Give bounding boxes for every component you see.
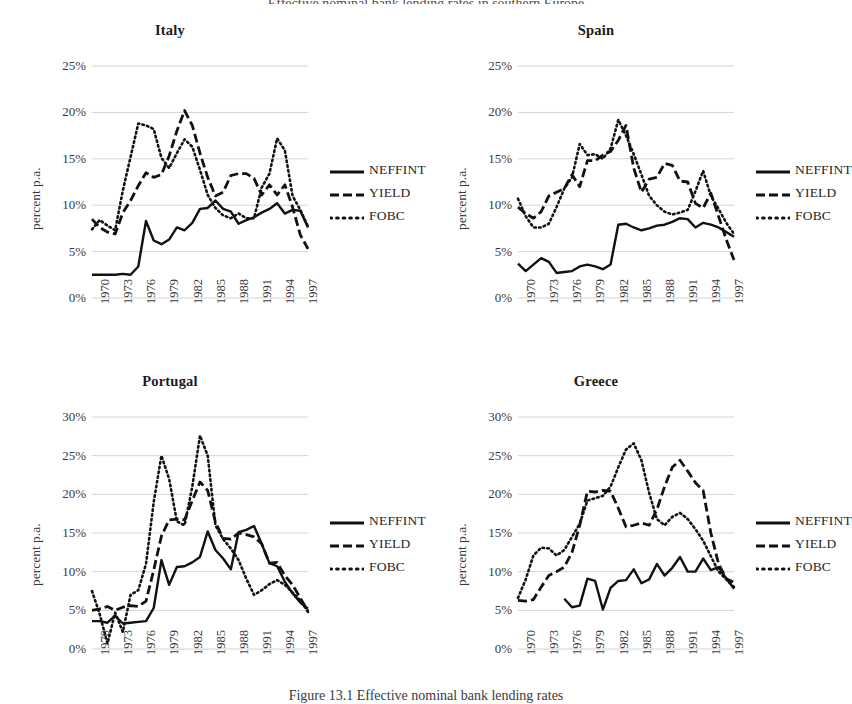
series-line-neffint	[564, 557, 734, 610]
x-tick-label: 1988	[663, 630, 678, 655]
y-tick-label: 20%	[40, 486, 86, 502]
x-tick-label: 1976	[570, 630, 585, 655]
panel-spain: Spain percent p.a. NEFFINTYIELDFOBC 0%5%…	[426, 0, 852, 351]
y-tick-label: 0%	[40, 641, 86, 657]
x-tick-label: 1973	[547, 630, 562, 655]
y-tick-label: 5%	[40, 244, 86, 260]
y-tick-label: 20%	[466, 104, 512, 120]
legend-swatch-dotted	[756, 561, 790, 573]
x-tick-label: 1985	[214, 279, 229, 304]
panel-italy: Italy percent p.a. NEFFINTYIELDFOBC 0%5%…	[0, 0, 426, 351]
x-tick-label: 1982	[617, 630, 632, 655]
y-tick-label: 5%	[466, 244, 512, 260]
y-tick-label: 25%	[466, 448, 512, 464]
legend-greece: NEFFINTYIELDFOBC	[756, 509, 852, 578]
legend-label: NEFFINT	[369, 513, 426, 529]
series-line-yield	[92, 482, 308, 611]
legend-label: FOBC	[369, 559, 405, 575]
legend-swatch-dashed	[756, 538, 790, 550]
legend-swatch-solid	[330, 515, 364, 527]
y-tick-label: 25%	[40, 448, 86, 464]
y-tick-label: 25%	[466, 58, 512, 74]
y-tick-label: 5%	[466, 602, 512, 618]
x-tick-label: 1970	[98, 630, 113, 655]
legend-spain: NEFFINTYIELDFOBC	[756, 158, 852, 227]
legend-label: FOBC	[795, 208, 831, 224]
x-tick-label: 1970	[524, 279, 539, 304]
y-tick-label: 15%	[40, 151, 86, 167]
x-tick-label: 1985	[640, 279, 655, 304]
x-tick-label: 1973	[121, 630, 136, 655]
x-tick-label: 1994	[283, 279, 298, 304]
legend-item-fobc[interactable]: FOBC	[756, 555, 852, 578]
legend-item-neffint[interactable]: NEFFINT	[330, 158, 426, 181]
y-tick-label: 30%	[40, 409, 86, 425]
legend-item-yield[interactable]: YIELD	[330, 181, 426, 204]
x-tick-label: 1994	[283, 630, 298, 655]
panel-portugal: Portugal percent p.a. NEFFINTYIELDFOBC 0…	[0, 351, 426, 702]
y-tick-label: 15%	[466, 151, 512, 167]
x-tick-label: 1985	[640, 630, 655, 655]
y-tick-label: 30%	[466, 409, 512, 425]
legend-item-yield[interactable]: YIELD	[330, 532, 426, 555]
legend-italy: NEFFINTYIELDFOBC	[330, 158, 426, 227]
x-tick-label: 1997	[732, 630, 747, 655]
x-tick-label: 1979	[593, 279, 608, 304]
x-tick-label: 1979	[167, 279, 182, 304]
x-tick-label: 1991	[260, 279, 275, 304]
y-tick-label: 10%	[466, 197, 512, 213]
x-tick-label: 1991	[260, 630, 275, 655]
legend-swatch-dotted	[330, 561, 364, 573]
legend-item-fobc[interactable]: FOBC	[330, 555, 426, 578]
series-line-yield	[518, 125, 734, 260]
legend-item-neffint[interactable]: NEFFINT	[330, 509, 426, 532]
x-tick-label: 1970	[98, 279, 113, 304]
figure-caption: Figure 13.1 Effective nominal bank lendi…	[0, 688, 852, 704]
y-tick-label: 15%	[40, 525, 86, 541]
x-tick-label: 1982	[191, 279, 206, 304]
legend-label: FOBC	[795, 559, 831, 575]
legend-label: NEFFINT	[795, 513, 852, 529]
legend-swatch-dashed	[330, 538, 364, 550]
x-tick-label: 1973	[547, 279, 562, 304]
legend-item-yield[interactable]: YIELD	[756, 532, 852, 555]
legend-swatch-solid	[756, 515, 790, 527]
series-line-neffint	[518, 218, 734, 273]
x-tick-label: 1985	[214, 630, 229, 655]
legend-swatch-dotted	[756, 210, 790, 222]
legend-item-yield[interactable]: YIELD	[756, 181, 852, 204]
x-tick-label: 1976	[144, 279, 159, 304]
legend-item-fobc[interactable]: FOBC	[330, 204, 426, 227]
series-line-fobc	[518, 120, 734, 234]
legend-item-fobc[interactable]: FOBC	[756, 204, 852, 227]
legend-label: YIELD	[795, 185, 837, 201]
x-tick-label: 1988	[237, 279, 252, 304]
x-tick-label: 1994	[709, 630, 724, 655]
x-tick-label: 1982	[191, 630, 206, 655]
y-tick-label: 10%	[40, 197, 86, 213]
legend-label: YIELD	[369, 536, 411, 552]
legend-label: YIELD	[369, 185, 411, 201]
y-tick-label: 20%	[466, 486, 512, 502]
x-tick-label: 1976	[144, 630, 159, 655]
x-tick-label: 1988	[663, 279, 678, 304]
y-tick-label: 25%	[40, 58, 86, 74]
y-tick-label: 0%	[466, 641, 512, 657]
x-tick-label: 1994	[709, 279, 724, 304]
series-line-neffint	[92, 526, 308, 623]
legend-swatch-solid	[756, 164, 790, 176]
x-tick-label: 1979	[593, 630, 608, 655]
legend-item-neffint[interactable]: NEFFINT	[756, 509, 852, 532]
y-tick-label: 20%	[40, 104, 86, 120]
y-tick-label: 15%	[466, 525, 512, 541]
x-tick-label: 1970	[524, 630, 539, 655]
x-tick-label: 1982	[617, 279, 632, 304]
legend-swatch-dashed	[756, 187, 790, 199]
series-line-fobc	[92, 124, 308, 231]
x-tick-label: 1991	[686, 630, 701, 655]
y-tick-label: 10%	[466, 564, 512, 580]
legend-item-neffint[interactable]: NEFFINT	[756, 158, 852, 181]
legend-label: NEFFINT	[369, 162, 426, 178]
y-tick-label: 10%	[40, 564, 86, 580]
